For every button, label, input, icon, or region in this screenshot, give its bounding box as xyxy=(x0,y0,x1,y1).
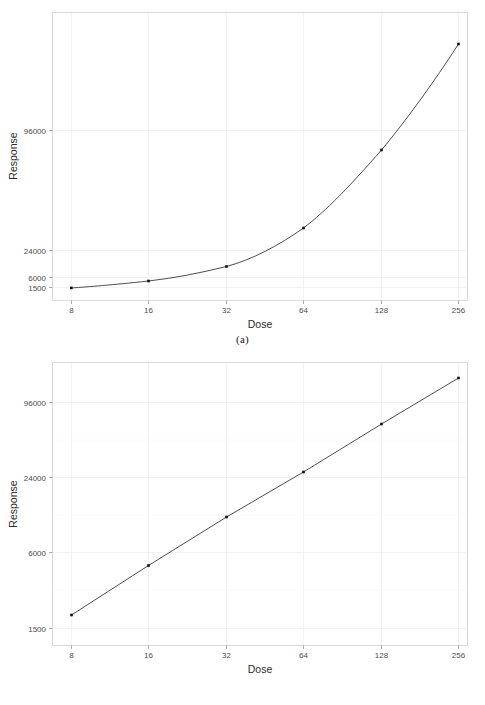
panel-a-xticks xyxy=(72,301,459,305)
data-point xyxy=(70,614,73,617)
data-point xyxy=(457,377,460,380)
data-point xyxy=(225,516,228,519)
panel-b-xticks xyxy=(72,646,459,650)
data-point xyxy=(70,287,73,290)
data-point xyxy=(225,265,228,268)
panel-a-xtick-label-64: 64 xyxy=(299,306,308,315)
panel-b-xtick-label-64: 64 xyxy=(299,651,308,660)
data-point xyxy=(302,471,305,474)
panel-a-ytick-label-96000: 96000 xyxy=(24,127,47,136)
panel-a-caption: (a) xyxy=(0,333,485,345)
panel-b-xtick-label-256: 256 xyxy=(452,651,466,660)
panel-b-ytick-label-24000: 24000 xyxy=(24,474,47,483)
panel-a-ytick-label-1500: 1500 xyxy=(28,284,46,293)
panel-a-xtick-label-32: 32 xyxy=(222,306,231,315)
panel-b-border xyxy=(53,363,468,646)
data-point xyxy=(147,280,150,283)
panel-b-ytick-label-96000: 96000 xyxy=(24,399,47,408)
panel-b-xtick-label-8: 8 xyxy=(69,651,74,660)
panel-b-ytick-label-1500: 1500 xyxy=(28,625,46,634)
panel-a-xaxis-title: Dose xyxy=(248,318,273,330)
panel-a: 96000 24000 6000 1500 8 16 32 64 128 256… xyxy=(0,0,485,352)
panel-a-border xyxy=(53,13,468,301)
data-point xyxy=(147,564,150,567)
data-point xyxy=(380,149,383,152)
panel-a-xtick-label-128: 128 xyxy=(375,306,389,315)
panel-b-xtick-label-16: 16 xyxy=(144,651,153,660)
panel-a-ytick-label-24000: 24000 xyxy=(24,247,47,256)
data-point xyxy=(302,227,305,230)
panel-a-xtick-label-8: 8 xyxy=(69,306,74,315)
panel-b-xtick-label-128: 128 xyxy=(375,651,389,660)
two-panel-figure: 96000 24000 6000 1500 8 16 32 64 128 256… xyxy=(0,0,485,705)
panel-b-xtick-label-32: 32 xyxy=(222,651,231,660)
panel-b-ytick-label-6000: 6000 xyxy=(28,549,46,558)
panel-b-plot: 96000 24000 6000 1500 8 16 32 64 128 256… xyxy=(0,352,485,705)
panel-a-yticks xyxy=(49,131,53,288)
data-point xyxy=(380,423,383,426)
panel-a-yaxis-title: Response xyxy=(7,132,19,179)
panel-b-xaxis-title: Dose xyxy=(248,663,273,675)
panel-b-yticks xyxy=(49,403,53,629)
panel-b: 96000 24000 6000 1500 8 16 32 64 128 256… xyxy=(0,352,485,705)
panel-a-xtick-label-256: 256 xyxy=(452,306,466,315)
panel-a-ytick-label-6000: 6000 xyxy=(28,274,46,283)
panel-a-xtick-label-16: 16 xyxy=(144,306,153,315)
panel-a-plot: 96000 24000 6000 1500 8 16 32 64 128 256… xyxy=(0,0,485,352)
panel-b-yaxis-title: Response xyxy=(7,480,19,527)
data-point xyxy=(457,43,460,46)
